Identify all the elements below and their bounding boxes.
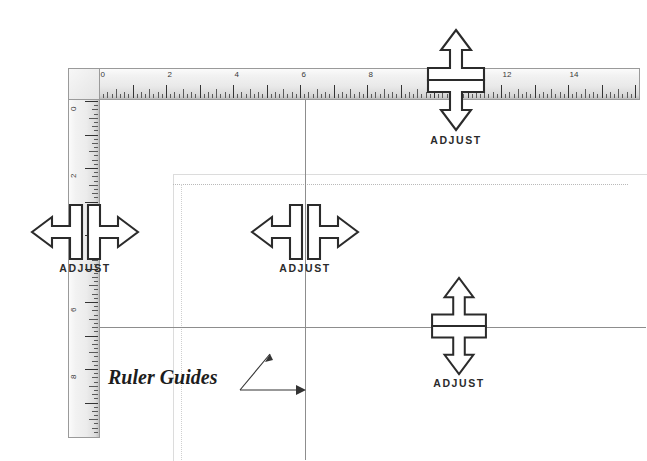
ruler-tick [85,403,98,404]
ruler-tick [187,94,188,98]
ruler-tick [262,94,263,98]
double-arrow-horizontal-icon[interactable] [30,203,140,261]
ruler-tick [89,386,98,387]
ruler-tick [317,89,318,98]
ruler-tick [283,89,284,98]
ruler-tick [92,361,98,362]
ruler-tick [94,147,98,148]
ruler-tick [254,94,255,98]
ruler-tick [94,289,98,290]
double-arrow-horizontal-icon[interactable] [250,203,360,261]
ruler-tick [606,94,607,98]
ruler-tick [409,92,410,98]
ruler-number: 8 [369,71,373,79]
ruler-tick [334,85,335,98]
ruler-tick [405,94,406,98]
ruler-tick [338,94,339,98]
ruler-tick [417,89,418,98]
ruler-tick [555,94,556,98]
ruler-tick [195,94,196,98]
ruler-tick [597,94,598,98]
horizontal-ruler[interactable]: 02468101214 [68,68,640,100]
ruler-number: 0 [70,106,78,110]
adjust-label-bottom: ADJUST [433,377,485,389]
ruler-tick [107,92,108,98]
ruler-tick [367,85,368,98]
ruler-tick [92,294,98,295]
ruler-tick [572,94,573,98]
double-arrow-vertical-icon[interactable] [424,28,488,132]
ruler-tick [384,89,385,98]
ruler-tick [380,94,381,98]
ruler-tick [92,428,98,429]
ruler-tick [304,94,305,98]
ruler-tick [94,298,98,299]
ruler-number: 2 [70,173,78,177]
ruler-tick [246,94,247,98]
ruler-tick [94,181,98,182]
ruler-tick [518,89,519,98]
double-arrow-vertical-icon[interactable] [427,276,491,376]
ruler-tick [94,373,98,374]
ruler-number: 4 [235,71,239,79]
ruler-tick [94,331,98,332]
ruler-tick [103,94,104,98]
adjust-widget-bottom[interactable]: ADJUST [427,276,491,392]
ruler-tick [153,94,154,98]
ruler-tick [89,151,98,152]
ruler-tick [421,94,422,98]
ruler-tick [346,94,347,98]
ruler-tick [292,92,293,98]
ruler-tick [179,94,180,98]
ruler-tick [94,398,98,399]
ruler-number: 14 [570,71,579,79]
ruler-tick [568,85,569,98]
ruler-tick [89,419,98,420]
ruler-tick [329,94,330,98]
ruler-tick [229,94,230,98]
margin-box-corner [173,174,647,461]
ruler-tick [602,85,603,98]
ruler-tick [497,94,498,98]
ruler-tick [92,126,98,127]
ruler-corner-box[interactable] [68,68,100,100]
ruler-tick [296,94,297,98]
margin-guide-horizontal [173,184,628,185]
ruler-tick [92,344,98,345]
ruler-tick [371,94,372,98]
ruler-tick [94,407,98,408]
ruler-tick [85,168,98,169]
ruler-tick [363,94,364,98]
ruler-number: 2 [168,71,172,79]
ruler-guide-horizontal[interactable] [68,327,646,328]
ruler-tick [388,94,389,98]
document-canvas[interactable] [88,100,646,460]
ruler-tick [89,118,98,119]
ruler-tick [547,94,548,98]
adjust-widget-top[interactable]: ADJUST [424,28,488,150]
ruler-tick [94,390,98,391]
adjust-widget-left[interactable]: ADJUST [30,203,140,277]
ruler-tick [89,185,98,186]
ruler-tick [401,85,402,98]
ruler-tick [275,92,276,98]
ruler-tick [94,164,98,165]
ruler-tick [204,94,205,98]
ruler-guides-caption: Ruler Guides [108,366,217,389]
ruler-tick [191,92,192,98]
ruler-tick [94,155,98,156]
ruler-tick [631,94,632,98]
ruler-tick [94,315,98,316]
ruler-tick [124,92,125,98]
ruler-tick [212,94,213,98]
ruler-tick [92,143,98,144]
ruler-tick [530,94,531,98]
adjust-widget-center[interactable]: ADJUST [250,203,360,277]
ruler-tick [635,85,636,98]
ruler-tick [94,365,98,366]
ruler-tick [94,139,98,140]
ruler-tick [94,189,98,190]
ruler-tick [233,85,234,98]
adjust-label-center: ADJUST [279,262,331,274]
ruler-tick [585,89,586,98]
